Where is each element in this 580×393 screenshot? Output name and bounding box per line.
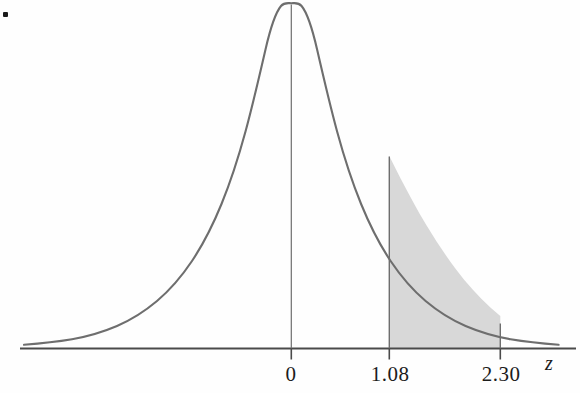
x-axis-label-z: z <box>545 352 553 375</box>
normal-curve-plot <box>0 0 580 393</box>
normal-distribution-figure: 0 1.08 2.30 z <box>0 0 580 393</box>
x-tick-label-upper-bound: 2.30 <box>482 362 521 387</box>
shaded-area-1.08-to-2.30 <box>389 156 500 348</box>
x-tick-label-lower-bound: 1.08 <box>371 362 410 387</box>
x-tick-label-zero: 0 <box>286 362 297 387</box>
